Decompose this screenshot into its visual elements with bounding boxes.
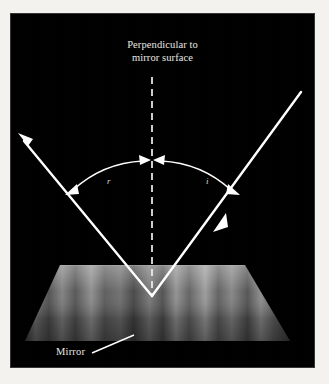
mirror-surface <box>25 265 290 342</box>
angle-arc-incidence-path <box>161 161 231 190</box>
angle-arc-reflection-path <box>73 161 143 190</box>
angle-arc-reflection-arrow-left <box>65 184 79 195</box>
diagram-panel: Perpendicular to mirror surface Mirror r… <box>10 13 315 368</box>
figure-canvas: Perpendicular to mirror surface Mirror r… <box>0 0 329 384</box>
angle-arc-incidence <box>153 155 240 195</box>
reflection-diagram-svg <box>10 13 315 368</box>
angle-arc-incidence-arrow-left <box>153 155 165 165</box>
angle-arc-reflection-arrow-right <box>139 155 151 165</box>
mirror-shading <box>25 265 290 341</box>
incident-ray-arrowhead <box>213 213 228 232</box>
angle-arc-reflection <box>65 155 151 195</box>
